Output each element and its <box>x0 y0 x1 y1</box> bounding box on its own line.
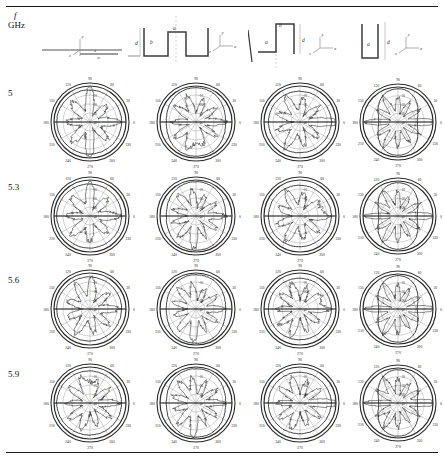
svg-text:90: 90 <box>88 171 92 175</box>
svg-text:210: 210 <box>155 237 161 241</box>
svg-text:270: 270 <box>193 446 199 450</box>
svg-text:270: 270 <box>87 446 93 450</box>
row-label-freq-1: 5.3 <box>8 182 19 192</box>
svg-text:d: d <box>302 37 305 43</box>
svg-text:150: 150 <box>155 99 161 103</box>
svg-text:30: 30 <box>126 99 130 103</box>
svg-text:270: 270 <box>395 164 401 168</box>
svg-text:180: 180 <box>352 215 358 219</box>
svg-text:120: 120 <box>374 271 380 275</box>
svg-text:30: 30 <box>336 193 340 197</box>
svg-text:30: 30 <box>336 380 340 384</box>
svg-text:90: 90 <box>396 359 400 363</box>
svg-text:-10: -10 <box>303 281 308 285</box>
svg-text:a: a <box>265 39 268 45</box>
svg-text:270: 270 <box>395 351 401 355</box>
svg-text:240: 240 <box>275 159 281 163</box>
svg-text:90: 90 <box>396 265 400 269</box>
polar-plot-r3-c0: 0306090120150180210240270300330-40-30-20… <box>38 357 142 451</box>
svg-text:0: 0 <box>133 308 135 312</box>
svg-text:120: 120 <box>65 177 71 181</box>
polar-plot-r0-c0: 0306090120150180210240270300330-40-30-20… <box>38 76 142 170</box>
svg-text:30: 30 <box>433 380 437 384</box>
svg-text:150: 150 <box>259 286 265 290</box>
row-label-freq-0: 5 <box>8 88 13 98</box>
svg-text:300: 300 <box>109 440 115 444</box>
svg-text:330: 330 <box>125 237 131 241</box>
svg-text:270: 270 <box>395 258 401 262</box>
svg-text:240: 240 <box>171 159 177 163</box>
svg-text:-10: -10 <box>93 281 98 285</box>
svg-text:120: 120 <box>374 178 380 182</box>
svg-text:120: 120 <box>171 364 177 368</box>
geometry-diagram-double-trough-corrugation: d a b y x z <box>128 10 238 70</box>
svg-text:150: 150 <box>49 380 55 384</box>
svg-text:0: 0 <box>343 121 345 125</box>
svg-text:b: b <box>150 39 153 45</box>
svg-text:300: 300 <box>417 345 423 349</box>
svg-text:210: 210 <box>358 236 364 240</box>
polar-plot-r1-c2: 0306090120150180210240270300330-40-30-20… <box>251 170 349 264</box>
svg-text:150: 150 <box>259 380 265 384</box>
svg-text:60: 60 <box>216 270 220 274</box>
svg-text:300: 300 <box>109 253 115 257</box>
svg-text:-40: -40 <box>93 215 98 219</box>
svg-text:60: 60 <box>320 270 324 274</box>
svg-text:210: 210 <box>49 424 55 428</box>
svg-text:180: 180 <box>253 121 259 125</box>
svg-text:30: 30 <box>232 99 236 103</box>
svg-text:0: 0 <box>440 308 442 312</box>
svg-text:-40: -40 <box>401 402 406 406</box>
svg-text:90: 90 <box>88 264 92 268</box>
svg-text:-10: -10 <box>401 94 406 98</box>
svg-text:180: 180 <box>253 215 259 219</box>
svg-text:180: 180 <box>43 308 49 312</box>
svg-text:330: 330 <box>433 142 439 146</box>
row-label-freq-3: 5.9 <box>8 369 19 379</box>
svg-text:300: 300 <box>417 158 423 162</box>
svg-text:30: 30 <box>126 380 130 384</box>
svg-text:180: 180 <box>352 308 358 312</box>
svg-text:30: 30 <box>126 286 130 290</box>
svg-text:210: 210 <box>358 423 364 427</box>
svg-text:60: 60 <box>110 270 114 274</box>
svg-text:300: 300 <box>215 159 221 163</box>
svg-text:240: 240 <box>275 253 281 257</box>
svg-text:-40: -40 <box>93 402 98 406</box>
svg-text:270: 270 <box>193 165 199 169</box>
svg-text:270: 270 <box>297 352 303 356</box>
svg-text:330: 330 <box>231 330 237 334</box>
polar-plot-r2-c0: 0306090120150180210240270300330-40-30-20… <box>38 263 142 357</box>
svg-text:y: y <box>221 30 225 35</box>
polar-plot-r0-c2: 0306090120150180210240270300330-40-30-20… <box>251 76 349 170</box>
svg-text:90: 90 <box>194 171 198 175</box>
svg-text:180: 180 <box>43 121 49 125</box>
svg-text:30: 30 <box>232 193 236 197</box>
geometry-diagram-flat-strip: w y x z <box>40 10 124 70</box>
svg-text:240: 240 <box>275 346 281 350</box>
svg-text:0: 0 <box>133 402 135 406</box>
svg-text:z: z <box>208 49 211 54</box>
svg-text:30: 30 <box>232 286 236 290</box>
svg-text:x: x <box>333 46 337 51</box>
frequency-symbol-label: f <box>14 10 17 20</box>
svg-text:300: 300 <box>215 346 221 350</box>
svg-text:240: 240 <box>171 253 177 257</box>
svg-text:30: 30 <box>433 193 437 197</box>
svg-text:210: 210 <box>49 237 55 241</box>
svg-text:-40: -40 <box>199 121 204 125</box>
bottom-horizontal-rule <box>6 452 438 453</box>
svg-text:120: 120 <box>65 270 71 274</box>
svg-text:210: 210 <box>155 330 161 334</box>
geometry-diagram-single-step-corrugation: b a d y x z <box>248 10 344 70</box>
svg-text:240: 240 <box>65 253 71 257</box>
svg-text:-40: -40 <box>199 215 204 219</box>
svg-text:0: 0 <box>343 402 345 406</box>
svg-text:240: 240 <box>374 158 380 162</box>
svg-text:180: 180 <box>149 215 155 219</box>
svg-text:-10: -10 <box>303 375 308 379</box>
svg-text:0: 0 <box>239 308 241 312</box>
svg-text:-10: -10 <box>401 375 406 379</box>
svg-text:x: x <box>419 46 423 51</box>
svg-text:270: 270 <box>297 446 303 450</box>
